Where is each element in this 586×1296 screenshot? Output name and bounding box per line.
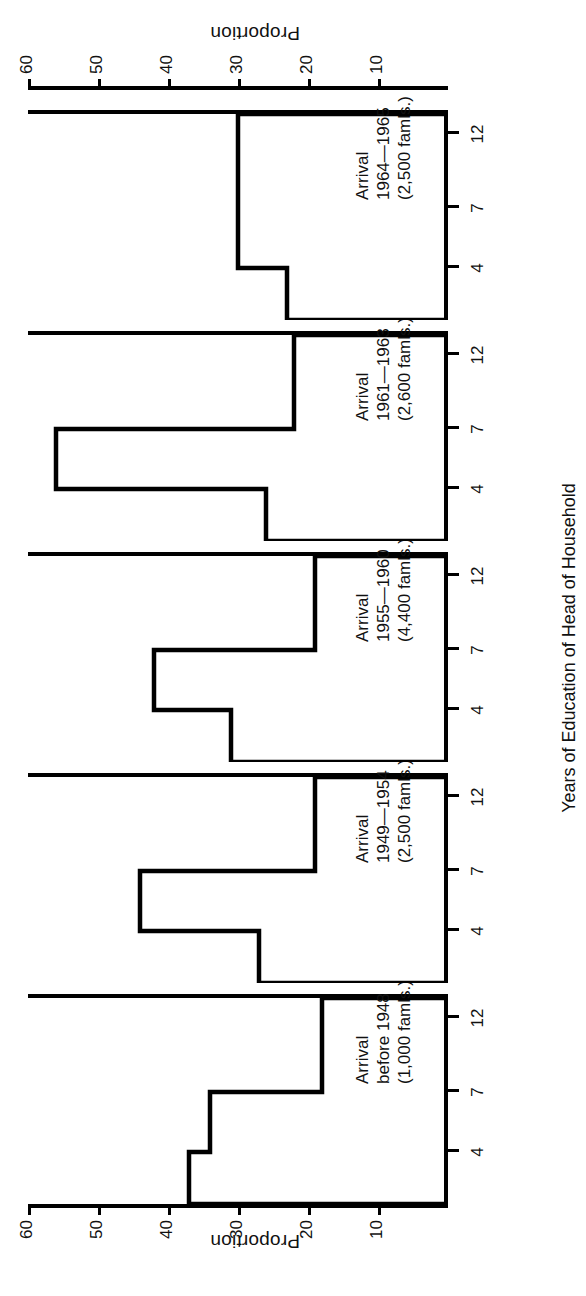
panel-baseline <box>444 556 448 762</box>
y-tick-label: 20 <box>297 1220 317 1239</box>
x-tick-label: 7 <box>468 630 488 670</box>
x-tick-label: 12 <box>468 998 488 1038</box>
y-tick <box>28 1204 31 1215</box>
x-tick-label: 4 <box>468 1132 488 1172</box>
panel-caption: Arrival 1949—1954 (2,500 famls.) <box>352 759 415 863</box>
x-tick-label: 12 <box>468 777 488 817</box>
y-tick-label: 40 <box>157 1220 177 1239</box>
plot-area: 4712Arrival 1964—1965 (2,500 famls.) <box>28 114 448 320</box>
y-axis-title-right: Proportion <box>210 22 300 44</box>
panel-caption: Arrival 1961—1963 (2,600 famls.) <box>352 317 415 421</box>
panel-row: 4712Arrival before 1948 (1,000 famls.)47… <box>28 90 498 1204</box>
y-tick-label: 50 <box>87 1220 107 1239</box>
panel-4: 4712Arrival 1961—1963 (2,600 famls.) <box>28 335 498 541</box>
plot-area: 4712Arrival before 1948 (1,000 famls.) <box>28 998 448 1204</box>
panel-baseline <box>444 777 448 983</box>
panel-2: 4712Arrival 1949—1954 (2,500 famls.) <box>28 777 498 983</box>
x-tick <box>448 1089 459 1092</box>
x-tick-label: 7 <box>468 188 488 228</box>
x-tick-label: 4 <box>468 469 488 509</box>
x-tick <box>448 1015 459 1018</box>
x-tick <box>448 265 459 268</box>
y-tick <box>98 1204 101 1215</box>
x-tick <box>448 647 459 650</box>
x-tick-label: 7 <box>468 409 488 449</box>
x-axis-title: Years of Education of Head of Household <box>559 0 580 1296</box>
y-tick-label: 60 <box>17 1220 37 1239</box>
chart-page: 605040302010 Proportion 605040302010 Pro… <box>0 0 586 1296</box>
x-tick <box>448 426 459 429</box>
x-tick-label: 12 <box>468 114 488 154</box>
y-tick <box>308 1204 311 1215</box>
panel-baseline <box>444 998 448 1204</box>
panel-caption: Arrival 1964—1965 (2,500 famls.) <box>352 96 415 200</box>
y-tick-label: 10 <box>367 1220 387 1239</box>
y-tick <box>238 79 241 90</box>
x-tick <box>448 573 459 576</box>
y-tick <box>238 1204 241 1215</box>
x-tick-label: 7 <box>468 1072 488 1112</box>
x-tick <box>448 707 459 710</box>
x-tick <box>448 928 459 931</box>
step-chart-figure: 605040302010 Proportion 605040302010 Pro… <box>0 0 586 1296</box>
panel-5: 4712Arrival 1964—1965 (2,500 famls.) <box>28 114 498 320</box>
panel-baseline <box>444 114 448 320</box>
y-tick <box>378 79 381 90</box>
y-tick <box>28 79 31 90</box>
panel-caption: Arrival before 1948 (1,000 famls.) <box>352 980 415 1084</box>
y-axis-right: 605040302010 <box>28 38 448 90</box>
x-tick-label: 12 <box>468 335 488 375</box>
plot-area: 4712Arrival 1955—1960 (4,400 famls.) <box>28 556 448 762</box>
x-tick <box>448 205 459 208</box>
x-tick-label: 4 <box>468 911 488 951</box>
panel-baseline <box>444 335 448 541</box>
x-tick <box>448 486 459 489</box>
x-tick <box>448 352 459 355</box>
y-axis-title-left: Proportion <box>210 1230 300 1252</box>
x-tick <box>448 131 459 134</box>
panel-caption: Arrival 1955—1960 (4,400 famls.) <box>352 538 415 642</box>
panel-1: 4712Arrival before 1948 (1,000 famls.) <box>28 998 498 1204</box>
x-tick <box>448 868 459 871</box>
x-tick-label: 4 <box>468 690 488 730</box>
y-tick-label: 30 <box>227 55 247 74</box>
x-tick-label: 4 <box>468 248 488 288</box>
x-tick-label: 7 <box>468 851 488 891</box>
y-tick <box>308 79 311 90</box>
y-tick-label: 20 <box>297 55 317 74</box>
y-tick-label: 60 <box>17 55 37 74</box>
y-tick <box>98 79 101 90</box>
y-tick <box>378 1204 381 1215</box>
panel-3: 4712Arrival 1955—1960 (4,400 famls.) <box>28 556 498 762</box>
x-tick-label: 12 <box>468 556 488 596</box>
plot-area: 4712Arrival 1949—1954 (2,500 famls.) <box>28 777 448 983</box>
rotated-figure-container: 605040302010 Proportion 605040302010 Pro… <box>0 0 586 1296</box>
x-tick <box>448 1149 459 1152</box>
y-tick-label: 10 <box>367 55 387 74</box>
y-tick-label: 40 <box>157 55 177 74</box>
y-tick <box>168 1204 171 1215</box>
y-tick <box>168 79 171 90</box>
x-tick <box>448 794 459 797</box>
y-tick-label: 50 <box>87 55 107 74</box>
plot-area: 4712Arrival 1961—1963 (2,600 famls.) <box>28 335 448 541</box>
